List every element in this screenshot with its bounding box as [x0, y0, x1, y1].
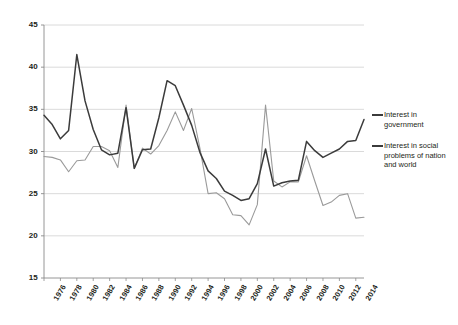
y-axis-tick-label: 25: [16, 189, 38, 198]
series-line: [44, 55, 364, 201]
legend-label-government: Interest in government: [384, 110, 458, 129]
data-series: [44, 55, 364, 225]
chart-legend: Interest in government Interest in socia…: [372, 110, 458, 182]
legend-label-social-problems: Interest in social problems of nation an…: [384, 141, 458, 170]
y-axis-tick-label: 35: [16, 104, 38, 113]
x-axis-ticks: [44, 278, 356, 281]
legend-entry-social-problems: Interest in social problems of nation an…: [372, 141, 458, 170]
legend-entry-government: Interest in government: [372, 110, 458, 129]
legend-swatch-government: [372, 114, 383, 116]
y-axis-tick-label: 20: [16, 231, 38, 240]
y-axis-tick-label: 45: [16, 20, 38, 29]
y-axis-tick-label: 15: [16, 273, 38, 282]
y-axis-tick-label: 30: [16, 147, 38, 156]
y-axis-tick-label: 40: [16, 62, 38, 71]
legend-swatch-social-problems: [372, 145, 383, 147]
line-chart: 15202530354045 1976197819801982198419861…: [0, 0, 458, 325]
